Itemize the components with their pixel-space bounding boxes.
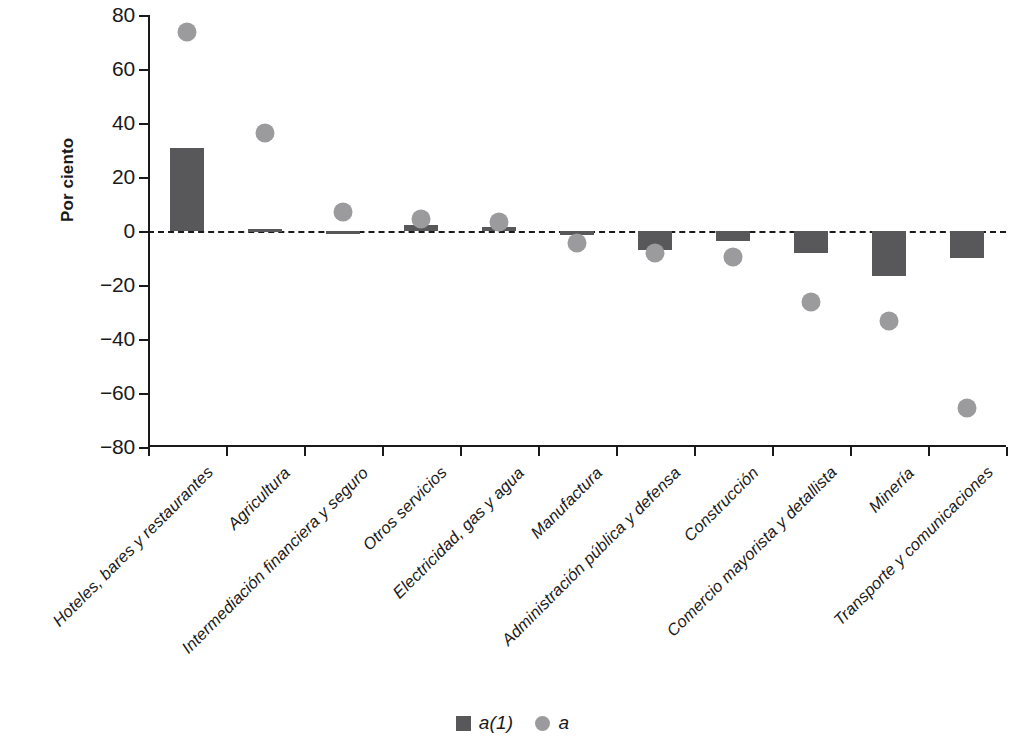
- bar: [170, 148, 204, 231]
- y-axis-tick-label: 60: [112, 57, 135, 81]
- legend-label: a: [558, 712, 569, 734]
- plot-area: 806040200−20−40−60−80: [148, 15, 1006, 447]
- data-point: [802, 293, 821, 312]
- x-axis-category-label: Transporte y comunicaciones: [830, 463, 997, 630]
- data-point: [958, 398, 977, 417]
- x-axis-tick: [1006, 447, 1008, 456]
- data-point: [490, 213, 509, 232]
- y-axis-tick: [139, 123, 148, 125]
- x-axis-tick: [226, 447, 228, 456]
- data-point: [724, 247, 743, 266]
- y-axis-tick: [139, 69, 148, 71]
- x-axis-tick: [382, 447, 384, 456]
- x-axis-category-label: Minería: [865, 463, 918, 516]
- y-axis-tick: [139, 285, 148, 287]
- legend-item: a(1): [456, 712, 514, 734]
- y-axis-tick: [139, 231, 148, 233]
- data-point: [880, 312, 899, 331]
- legend-circle-icon: [535, 716, 550, 731]
- data-point: [256, 123, 275, 142]
- y-axis-tick-label: 40: [112, 111, 135, 135]
- bar: [248, 229, 282, 232]
- chart-figure: Por ciento 806040200−20−40−60−80 Hoteles…: [0, 0, 1025, 748]
- y-axis-tick-label: −60: [100, 381, 135, 405]
- data-point: [646, 244, 665, 263]
- x-axis-tick: [928, 447, 930, 456]
- y-axis-tick: [139, 15, 148, 17]
- y-axis-tick: [139, 447, 148, 449]
- bar: [872, 231, 906, 276]
- data-point: [178, 23, 197, 42]
- x-axis-tick: [850, 447, 852, 456]
- chart-legend: a(1)a: [0, 712, 1025, 734]
- bar: [326, 231, 360, 234]
- y-axis-tick-label: 20: [112, 165, 135, 189]
- x-axis-tick: [460, 447, 462, 456]
- bar: [950, 231, 984, 258]
- y-axis-tick: [139, 177, 148, 179]
- x-axis-category-label: Electricidad, gas y agua: [389, 463, 528, 602]
- x-axis-category-label: Manufactura: [527, 463, 606, 542]
- y-axis-tick-label: 80: [112, 3, 135, 27]
- legend-square-icon: [456, 716, 471, 731]
- x-axis-category-label: Comercio mayorista y detallista: [663, 463, 841, 641]
- data-point: [568, 233, 587, 252]
- x-axis-tick: [148, 447, 150, 456]
- y-axis-title: Por ciento: [58, 138, 78, 222]
- data-point: [334, 203, 353, 222]
- bar: [794, 231, 828, 253]
- legend-item: a: [535, 712, 569, 734]
- x-axis-tick: [772, 447, 774, 456]
- y-axis-tick-label: −80: [100, 435, 135, 459]
- bar: [716, 231, 750, 241]
- x-axis-category-label: Construcción: [680, 463, 762, 545]
- data-point: [412, 209, 431, 228]
- y-axis-tick: [139, 393, 148, 395]
- legend-label: a(1): [479, 712, 514, 734]
- x-axis-tick: [694, 447, 696, 456]
- x-axis-category-label: Agricultura: [224, 463, 294, 533]
- x-axis-category-label: Hoteles, bares y restaurantes: [49, 463, 217, 631]
- y-axis-tick-label: −20: [100, 273, 135, 297]
- y-axis-tick-label: 0: [124, 219, 135, 243]
- x-axis-tick: [538, 447, 540, 456]
- y-axis-tick: [139, 339, 148, 341]
- x-axis-tick: [616, 447, 618, 456]
- y-axis-tick-label: −40: [100, 327, 135, 351]
- x-axis-tick: [304, 447, 306, 456]
